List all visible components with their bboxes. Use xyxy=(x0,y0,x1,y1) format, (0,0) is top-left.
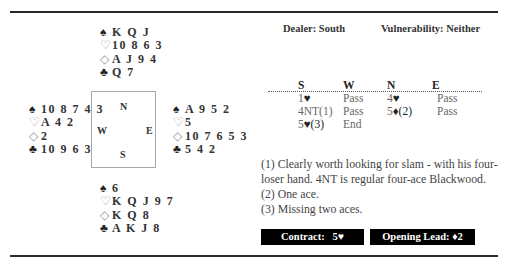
south-diamonds: ◇K Q 8 xyxy=(100,209,174,222)
note-line: (2) One ace. xyxy=(261,187,501,202)
compass-west: W xyxy=(97,125,107,136)
north-diamonds: ◇A J 9 4 xyxy=(100,53,163,66)
compass-box: N W E S xyxy=(91,91,156,168)
heart-solid-icon: ♥(3) xyxy=(304,118,324,130)
west-hearts-cards: A 4 2 xyxy=(41,115,75,129)
south-hearts-cards: K Q J 9 7 xyxy=(112,194,174,208)
north-hand: ♠K Q J ♡10 8 6 3 ◇A J 9 4 ♣Q 7 xyxy=(100,26,163,80)
bidding-notes: (1) Clearly worth looking for slam - wit… xyxy=(261,157,501,217)
club-icon: ♣ xyxy=(29,143,41,156)
contract-value: 5♥ xyxy=(333,231,344,242)
bid-r1-e: Pass xyxy=(437,105,457,117)
diamond-icon: ◇ xyxy=(173,130,185,143)
note-line: (3) Missing two aces. xyxy=(261,202,501,217)
heart-icon: ♡ xyxy=(100,39,112,52)
spade-icon: ♠ xyxy=(29,103,41,116)
diamond-solid-icon: ♦(2) xyxy=(393,105,412,117)
west-clubs-cards: 10 9 6 3 xyxy=(41,142,92,156)
east-spades: ♠A 9 5 2 xyxy=(173,103,248,116)
compass-east: E xyxy=(146,125,153,136)
east-diamonds-cards: 10 7 6 5 3 xyxy=(185,129,248,143)
diamond-icon: ◇ xyxy=(29,130,41,143)
east-hand: ♠A 9 5 2 ♡5 ◇10 7 6 5 3 ♣5 4 2 xyxy=(173,103,248,157)
south-spades: ♠6 xyxy=(100,182,174,195)
diamond-icon: ◇ xyxy=(100,209,112,222)
diamond-icon: ◇ xyxy=(100,53,112,66)
north-clubs: ♣Q 7 xyxy=(100,66,163,79)
vulnerability-label: Vulnerability: Neither xyxy=(381,23,480,34)
east-hearts-cards: 5 xyxy=(185,115,193,129)
contract-box: Contract: 5♥ xyxy=(261,229,364,245)
contract-label: Contract: xyxy=(281,231,325,242)
north-spades-cards: K Q J xyxy=(112,25,150,39)
south-clubs-cards: A K J 8 xyxy=(112,221,161,235)
north-spades: ♠K Q J xyxy=(100,26,163,39)
bid-r0-s: 1♥ xyxy=(298,92,311,104)
compass-north: N xyxy=(120,101,127,112)
club-icon: ♣ xyxy=(100,222,112,235)
south-clubs: ♣A K J 8 xyxy=(100,222,174,235)
west-diamonds-cards: 2 xyxy=(41,129,49,143)
north-clubs-cards: Q 7 xyxy=(112,65,135,79)
bid-r2-s: 5♥(3) xyxy=(298,118,324,130)
note-line: (1) Clearly worth looking for slam - wit… xyxy=(261,157,501,172)
bid-r0-e: Pass xyxy=(437,92,457,104)
bid-r0-n: 4♥ xyxy=(387,92,400,104)
spade-icon: ♠ xyxy=(100,182,112,195)
bid-col-n: N xyxy=(387,79,395,91)
heart-solid-icon: ♥ xyxy=(304,92,311,104)
bid-r0-w: Pass xyxy=(343,92,363,104)
north-diamonds-cards: A J 9 4 xyxy=(112,52,158,66)
opening-lead-value: ♦2 xyxy=(452,231,463,242)
dealer-label: Dealer: South xyxy=(283,23,345,34)
heart-icon: ♡ xyxy=(100,195,112,208)
south-diamonds-cards: K Q 8 xyxy=(112,208,150,222)
south-spades-cards: 6 xyxy=(112,181,120,195)
club-icon: ♣ xyxy=(100,66,112,79)
club-icon: ♣ xyxy=(173,143,185,156)
top-rule xyxy=(10,11,498,13)
south-hearts: ♡K Q J 9 7 xyxy=(100,195,174,208)
east-spades-cards: A 9 5 2 xyxy=(185,102,231,116)
heart-icon: ♡ xyxy=(173,116,185,129)
bid-r1-n: 5♦(2) xyxy=(387,105,412,117)
north-hearts: ♡10 8 6 3 xyxy=(100,39,163,52)
compass-south: S xyxy=(120,149,126,160)
bid-r2-w: End xyxy=(343,118,362,130)
opening-lead-label: Opening Lead: xyxy=(382,231,449,242)
note-line: loser hand. 4NT is regular four-ace Blac… xyxy=(261,172,501,187)
east-diamonds: ◇10 7 6 5 3 xyxy=(173,130,248,143)
heart-icon: ♡ xyxy=(29,116,41,129)
spade-icon: ♠ xyxy=(173,103,185,116)
east-clubs: ♣5 4 2 xyxy=(173,143,248,156)
bid-col-w: W xyxy=(343,79,355,91)
east-hearts: ♡5 xyxy=(173,116,248,129)
bid-r1-s: 4NT(1) xyxy=(298,105,333,117)
bid-col-e: E xyxy=(432,79,440,91)
heart-solid-icon: ♥ xyxy=(393,92,400,104)
east-clubs-cards: 5 4 2 xyxy=(185,142,217,156)
opening-lead-box: Opening Lead: ♦2 xyxy=(370,229,475,245)
bid-col-s: S xyxy=(298,79,304,91)
bottom-rule xyxy=(10,255,498,257)
bid-r1-w: Pass xyxy=(343,105,363,117)
north-hearts-cards: 10 8 6 3 xyxy=(112,38,163,52)
spade-icon: ♠ xyxy=(100,26,112,39)
south-hand: ♠6 ♡K Q J 9 7 ◇K Q 8 ♣A K J 8 xyxy=(100,182,174,236)
